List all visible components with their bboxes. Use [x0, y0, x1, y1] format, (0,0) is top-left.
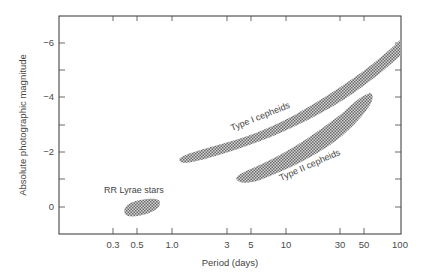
x-tick-label: 30: [335, 239, 346, 250]
rr-lyrae-label: RR Lyrae stars: [104, 185, 164, 195]
x-tick-label: 50: [359, 239, 370, 250]
x-tick-label: 1.0: [165, 239, 178, 250]
x-tick-label: 5: [248, 239, 253, 250]
x-tick-label: 10: [281, 239, 292, 250]
y-tick-label: −4: [43, 91, 54, 102]
y-tick-label: −2: [43, 146, 54, 157]
x-axis-title: Period (days): [202, 257, 259, 268]
y-axis-title: Absolute photographic magnitude: [17, 54, 28, 196]
period-luminosity-chart: −6 −4 −2 0 0.3 0.5 1.0 3 5 10 30 50 100 …: [0, 0, 427, 277]
y-tick-label: 0: [49, 201, 54, 212]
y-tick-label: −6: [43, 37, 54, 48]
rr-lyrae-region: [124, 199, 160, 217]
x-tick-label: 0.3: [106, 239, 119, 250]
x-tick-label: 3: [224, 239, 229, 250]
x-tick-label: 0.5: [130, 239, 143, 250]
x-tick-label: 100: [392, 239, 408, 250]
